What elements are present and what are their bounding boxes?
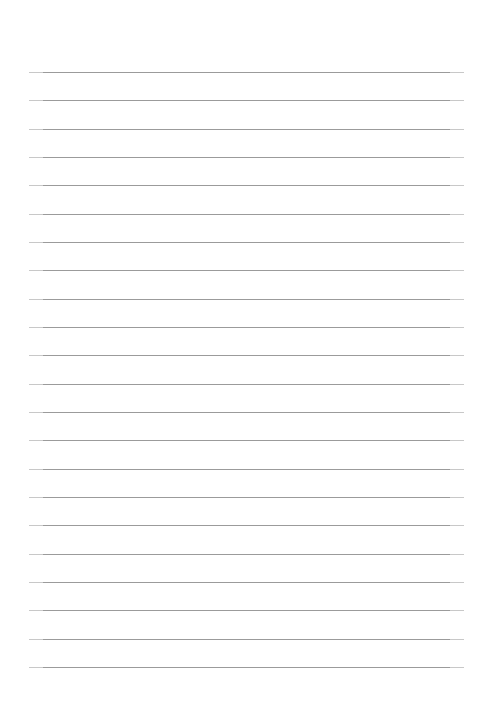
ruled-line <box>29 129 464 130</box>
ruled-line <box>29 582 464 583</box>
ruled-line <box>29 440 464 441</box>
ruled-line <box>29 355 464 356</box>
ruled-line <box>29 157 464 158</box>
ruled-line <box>29 639 464 640</box>
ruled-line <box>29 497 464 498</box>
ruled-line <box>29 525 464 526</box>
ruled-line <box>29 299 464 300</box>
ruled-line <box>29 469 464 470</box>
writing-area[interactable] <box>0 0 479 721</box>
ruled-line <box>29 72 464 73</box>
ruled-line <box>29 554 464 555</box>
ruled-line <box>29 667 464 668</box>
lined-paper-sheet <box>0 0 479 721</box>
ruled-line <box>29 610 464 611</box>
ruled-line <box>29 270 464 271</box>
ruled-line <box>29 100 464 101</box>
ruled-line <box>29 214 464 215</box>
ruled-line <box>29 327 464 328</box>
ruled-line <box>29 242 464 243</box>
ruled-line <box>29 185 464 186</box>
ruled-line <box>29 412 464 413</box>
ruled-line <box>29 384 464 385</box>
